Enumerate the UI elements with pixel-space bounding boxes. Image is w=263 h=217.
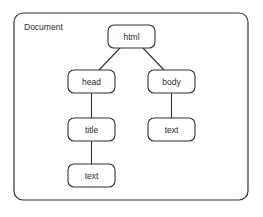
node-title[interactable]: title xyxy=(68,118,115,141)
node-body[interactable]: body xyxy=(148,70,195,93)
node-body-label: body xyxy=(162,77,181,87)
node-body-text-label: text xyxy=(165,125,179,135)
node-title-text-label: text xyxy=(85,171,99,181)
diagram-canvas: Document html head body title text xyxy=(0,0,263,217)
node-head[interactable]: head xyxy=(68,70,115,93)
document-container-label: Document xyxy=(24,22,63,32)
dom-tree-diagram: Document html head body title text xyxy=(0,0,263,217)
node-head-label: head xyxy=(82,77,101,87)
node-title-label: title xyxy=(85,125,99,135)
node-html-label: html xyxy=(123,32,139,42)
node-html[interactable]: html xyxy=(108,25,155,48)
node-title-text[interactable]: text xyxy=(68,164,115,187)
node-body-text[interactable]: text xyxy=(148,118,195,141)
